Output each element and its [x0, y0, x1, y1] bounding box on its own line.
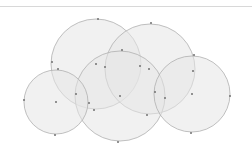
point-marker [146, 114, 148, 116]
point-marker [95, 63, 97, 65]
point-marker [57, 68, 59, 70]
point-marker [164, 97, 166, 99]
point-marker [97, 18, 99, 20]
point-marker [88, 102, 90, 104]
circle-diagram [0, 0, 252, 152]
point-marker [104, 66, 106, 68]
point-marker [93, 109, 95, 111]
point-marker [117, 141, 119, 143]
point-marker [75, 93, 77, 95]
point-marker [148, 68, 150, 70]
point-marker [54, 134, 56, 136]
circles-group [24, 19, 230, 141]
point-marker [55, 101, 57, 103]
point-marker [51, 61, 53, 63]
point-marker [190, 132, 192, 134]
point-marker [119, 95, 121, 97]
point-marker [121, 49, 123, 51]
point-marker [150, 22, 152, 24]
point-marker [23, 99, 25, 101]
point-marker [154, 91, 156, 93]
point-marker [193, 54, 195, 56]
point-marker [191, 93, 193, 95]
point-marker [139, 65, 141, 67]
point-marker [229, 95, 231, 97]
point-marker [192, 70, 194, 72]
